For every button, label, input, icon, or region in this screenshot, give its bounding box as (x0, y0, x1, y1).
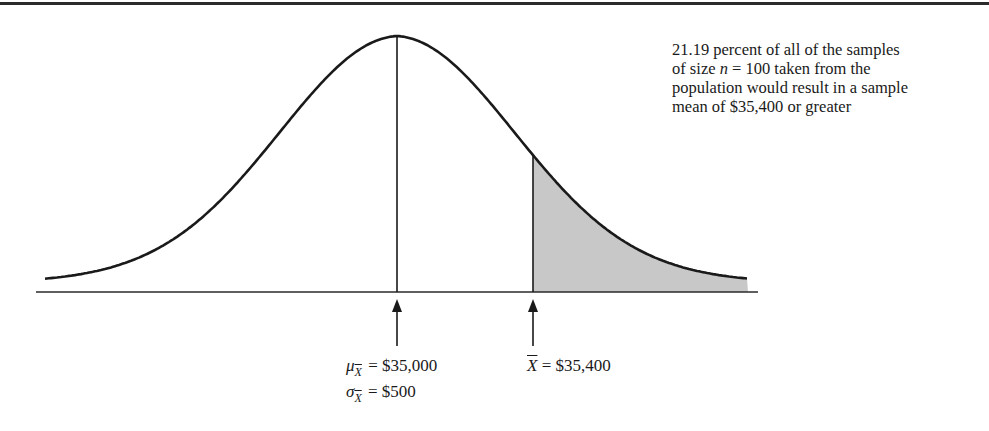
mu-symbol: μ (346, 356, 355, 375)
annotation-line-2-post: = 100 taken from the (728, 59, 871, 78)
sample-mean-arrow-icon (528, 299, 538, 346)
sample-mean-value: = $35,400 (537, 356, 610, 375)
xbar-symbol: X (527, 356, 537, 375)
standard-error-value: = $500 (364, 382, 416, 401)
standard-error-label: σX = $500 (346, 382, 416, 403)
annotation-line-1: 21.19 percent of all of the samples (672, 40, 972, 59)
annotation-line-4: mean of $35,400 or greater (672, 97, 972, 116)
annotation-line-3: population would result in a sample (672, 78, 972, 97)
normal-curve (45, 36, 747, 279)
xbar-subscript: X (354, 391, 361, 405)
annotation-text: 21.19 percent of all of the samples of s… (672, 40, 972, 116)
sample-mean-label: X = $35,400 (527, 356, 611, 376)
annotation-line-2: of size n = 100 taken from the (672, 59, 972, 78)
annotation-line-2-pre: of size (672, 59, 720, 78)
mean-arrow-icon (392, 299, 402, 346)
mean-label: μX = $35,000 (346, 356, 437, 377)
mean-value: = $35,000 (364, 356, 437, 375)
shaded-tail-area (533, 155, 748, 292)
sample-size-variable: n (720, 59, 728, 78)
xbar-subscript: X (355, 365, 362, 379)
